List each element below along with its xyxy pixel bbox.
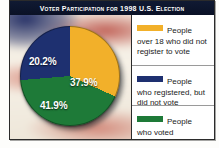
legend-label-line1: People xyxy=(167,117,192,126)
pie-slices xyxy=(20,26,120,126)
legend-swatch-navy-icon xyxy=(137,76,163,82)
chart-title-bar: Voter Participation for 1998 U.S. Electi… xyxy=(10,1,214,15)
legend-label-line1: People xyxy=(167,26,192,35)
page-title: Voter Participation for 1998 U.S. Electi… xyxy=(40,4,185,13)
slice-label-navy: 20.2% xyxy=(29,56,56,67)
legend-swatch-green-icon xyxy=(137,116,163,122)
pie-chart: 20.2% 37.9% 41.9% xyxy=(16,21,124,133)
slice-label-green: 41.9% xyxy=(40,100,67,111)
legend-item-voted: People who voted xyxy=(132,105,214,139)
legend-item-not-registered: People over 18 who did not register to v… xyxy=(132,15,214,65)
legend-item-registered-not-voted: People who registered, but did not vote xyxy=(132,65,214,105)
chart-figure: Voter Participation for 1998 U.S. Electi… xyxy=(9,0,215,140)
legend-label-line1: People xyxy=(167,77,192,86)
legend-label-rest: who voted xyxy=(137,128,211,138)
pie-chart-plot-area: 20.2% 37.9% 41.9% xyxy=(10,15,131,139)
legend-label-rest: over 18 who did not register to vote xyxy=(137,37,211,56)
legend-swatch-yellow-icon xyxy=(137,25,163,31)
chart-legend: People over 18 who did not register to v… xyxy=(131,15,214,139)
slice-label-yellow: 37.9% xyxy=(70,77,97,88)
